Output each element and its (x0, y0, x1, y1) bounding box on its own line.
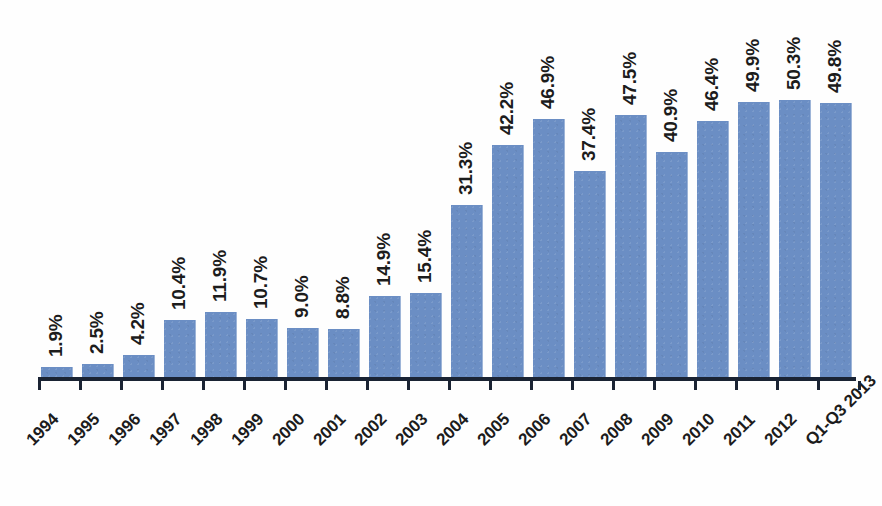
x-axis-tick (530, 381, 533, 390)
x-axis-tick (79, 381, 82, 390)
x-axis-tick (694, 381, 697, 390)
bar-value-label: 10.7% (250, 256, 272, 309)
x-axis-label: 1996 (105, 410, 145, 450)
bar-value-label: 37.4% (578, 108, 600, 161)
x-axis-tick (284, 381, 287, 390)
bar-value-label: 40.9% (660, 89, 682, 142)
bar-slot: 14.9% (366, 20, 407, 378)
bar-slot: 31.3% (448, 20, 489, 378)
x-axis-label: 1999 (228, 410, 268, 450)
bar[interactable] (328, 329, 360, 378)
x-axis-label: 1994 (23, 410, 63, 450)
x-axis-tick (202, 381, 205, 390)
bar-value-label: 2.5% (86, 311, 108, 354)
bar-slot: 8.8% (325, 20, 366, 378)
bar-slot: 47.5% (612, 20, 653, 378)
x-axis-tick (858, 381, 861, 390)
x-axis-tick (407, 381, 410, 390)
bar-slot: 10.4% (161, 20, 202, 378)
bar[interactable] (615, 115, 647, 378)
plot-area: 1.9%2.5%4.2%10.4%11.9%10.7%9.0%8.8%14.9%… (38, 20, 855, 378)
x-axis-label: 1995 (64, 410, 104, 450)
bar[interactable] (451, 205, 483, 378)
x-axis-tick (612, 381, 615, 390)
bar[interactable] (82, 364, 114, 378)
x-axis-tick (735, 381, 738, 390)
bar[interactable] (779, 100, 811, 378)
bar[interactable] (492, 145, 524, 378)
x-axis-tick (653, 381, 656, 390)
bar-slot: 11.9% (202, 20, 243, 378)
bar-slot: 50.3% (776, 20, 817, 378)
x-axis-label: 2009 (638, 410, 678, 450)
x-axis-label: 2003 (392, 410, 432, 450)
bar-value-label: 50.3% (783, 37, 805, 90)
bar-slot: 49.8% (817, 20, 858, 378)
bar-slot: 9.0% (284, 20, 325, 378)
bar[interactable] (697, 121, 729, 378)
x-axis-label: 2011 (720, 410, 760, 450)
bar-value-label: 47.5% (619, 52, 641, 105)
bar[interactable] (410, 293, 442, 378)
bar-value-label: 49.8% (824, 40, 846, 93)
bar-value-label: 8.8% (332, 276, 354, 319)
bar-slot: 10.7% (243, 20, 284, 378)
bar[interactable] (574, 171, 606, 378)
x-axis-label: 2008 (597, 410, 637, 450)
x-axis-tick (489, 381, 492, 390)
x-axis-label: 2002 (351, 410, 391, 450)
bar-slot: 2.5% (79, 20, 120, 378)
bar-value-label: 14.9% (373, 233, 395, 286)
bar-slot: 4.2% (120, 20, 161, 378)
x-axis-tick (120, 381, 123, 390)
bar-slot: 46.4% (694, 20, 735, 378)
x-axis-label: 2005 (474, 410, 514, 450)
bar[interactable] (123, 355, 155, 378)
bar-value-label: 9.0% (291, 275, 313, 318)
bar-value-label: 49.9% (742, 39, 764, 92)
bar-value-label: 1.9% (45, 314, 67, 357)
bar[interactable] (246, 319, 278, 378)
bar-value-label: 4.2% (127, 302, 149, 345)
bar[interactable] (820, 103, 852, 378)
bar-value-label: 31.3% (455, 142, 477, 195)
x-axis-tick (571, 381, 574, 390)
bar-value-label: 15.4% (414, 230, 436, 283)
x-axis-label: 2012 (761, 410, 801, 450)
bar-slot: 42.2% (489, 20, 530, 378)
x-axis-label: 2010 (679, 410, 719, 450)
x-axis-tick (366, 381, 369, 390)
bar-value-label: 46.9% (537, 56, 559, 109)
bar[interactable] (369, 296, 401, 378)
bar[interactable] (164, 320, 196, 378)
bar-value-label: 46.4% (701, 58, 723, 111)
x-axis-tick (448, 381, 451, 390)
x-axis-label: 1997 (146, 410, 186, 450)
bar-value-label: 11.9% (209, 250, 231, 302)
x-axis-tick (38, 381, 41, 390)
x-axis-label: 2001 (310, 410, 350, 450)
bar-slot: 15.4% (407, 20, 448, 378)
x-axis-label: 2004 (433, 410, 473, 450)
bar-value-label: 10.4% (168, 257, 190, 310)
bar-slot: 49.9% (735, 20, 776, 378)
bar[interactable] (533, 119, 565, 378)
x-axis-tick (776, 381, 779, 390)
x-axis-label: 1998 (187, 410, 227, 450)
x-axis-tick (817, 381, 820, 390)
bar[interactable] (287, 328, 319, 378)
bar[interactable] (205, 312, 237, 378)
x-axis-label: 2000 (269, 410, 309, 450)
bar[interactable] (738, 102, 770, 378)
x-axis-label: 2007 (556, 410, 596, 450)
bar-chart: 1.9%2.5%4.2%10.4%11.9%10.7%9.0%8.8%14.9%… (0, 0, 882, 506)
x-axis-tick (161, 381, 164, 390)
x-axis-labels: 1994199519961997199819992000200120022003… (38, 392, 855, 502)
bar-slot: 1.9% (38, 20, 79, 378)
x-axis-label: Q1-Q3 2013 (802, 371, 881, 450)
bar-slot: 40.9% (653, 20, 694, 378)
x-axis-label: 2006 (515, 410, 555, 450)
bar-slot: 46.9% (530, 20, 571, 378)
bar-value-label: 42.2% (496, 82, 518, 135)
bar[interactable] (656, 152, 688, 378)
